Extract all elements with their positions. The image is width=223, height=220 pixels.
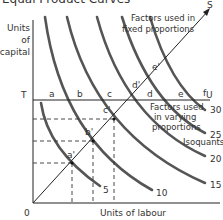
point-a-label: a [49,89,55,99]
isoquant-label-25: 25 [210,130,221,140]
isoquant-diagram: Equal Product Curves Units of capital 0 … [0,0,223,220]
t-label: T [20,90,27,100]
point-a-prime-label: a' [67,150,75,160]
point-d-label: d [147,89,153,99]
point-c-prime [112,117,115,120]
point-e-label: e [178,89,184,99]
isoquant-label-15: 15 [210,180,221,190]
fixed-proportions-label-2: fixed proportions [122,24,195,34]
point-b-prime [91,139,94,142]
point-c-prime-label: c' [103,105,110,115]
isoquant-label-30: 30 [210,105,222,115]
s-label: S [207,0,213,10]
y-axis-label-3: capital [0,47,30,57]
y-axis-label-1: Units [7,23,30,33]
fixed-proportions-label-1: Factors used in [131,13,195,23]
isoquant-10 [45,17,152,190]
origin-label: 0 [24,208,30,218]
y-axis-label-2: of [21,35,31,45]
point-b-label: b [77,89,83,99]
u-label: U [206,90,213,100]
point-a-prime [70,161,73,164]
isoquant-label-5: 5 [103,185,109,195]
varying-proportions-label-1: Factors used [150,102,204,112]
point-c-label: c [107,89,112,99]
isoquant-5 [41,103,100,186]
varying-proportions-label-2: in varying [154,112,196,122]
isoquant-label-10: 10 [156,188,168,198]
isoquant-label-20: 20 [210,154,222,164]
point-e-prime-label: e' [152,62,160,72]
isoquant-20 [97,17,205,156]
point-d-prime-label: d' [132,80,140,90]
varying-proportions-label-3: proportions [152,122,201,132]
diagram-title: Equal Product Curves [2,0,130,6]
point-b-prime-label: b' [85,127,93,137]
x-axis-label: Units of labour [100,208,166,218]
